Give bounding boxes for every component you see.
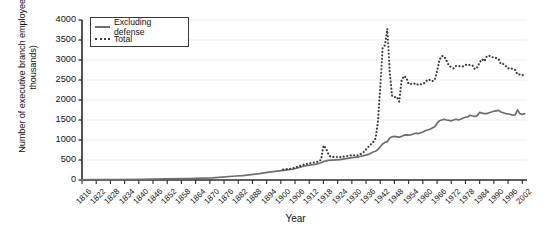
y-axis-tick-label: 0 bbox=[30, 174, 76, 184]
legend-dotted-line-icon bbox=[95, 34, 112, 44]
series-line-total bbox=[283, 29, 524, 170]
x-axis-title: Year bbox=[0, 213, 555, 224]
legend-item-excluding-defense: Excluding defense bbox=[95, 21, 184, 33]
chart-container: 05001000150020002500300035004000 1816182… bbox=[0, 0, 555, 239]
y-axis-title: Number of executive branch employees (in… bbox=[17, 0, 40, 157]
legend-solid-line-icon bbox=[95, 22, 112, 32]
legend-label-total: Total bbox=[112, 34, 132, 44]
chart-legend: Excluding defense Total bbox=[90, 17, 189, 47]
data-series-layer bbox=[82, 29, 525, 180]
x-axis-title-text: Year bbox=[285, 213, 305, 224]
